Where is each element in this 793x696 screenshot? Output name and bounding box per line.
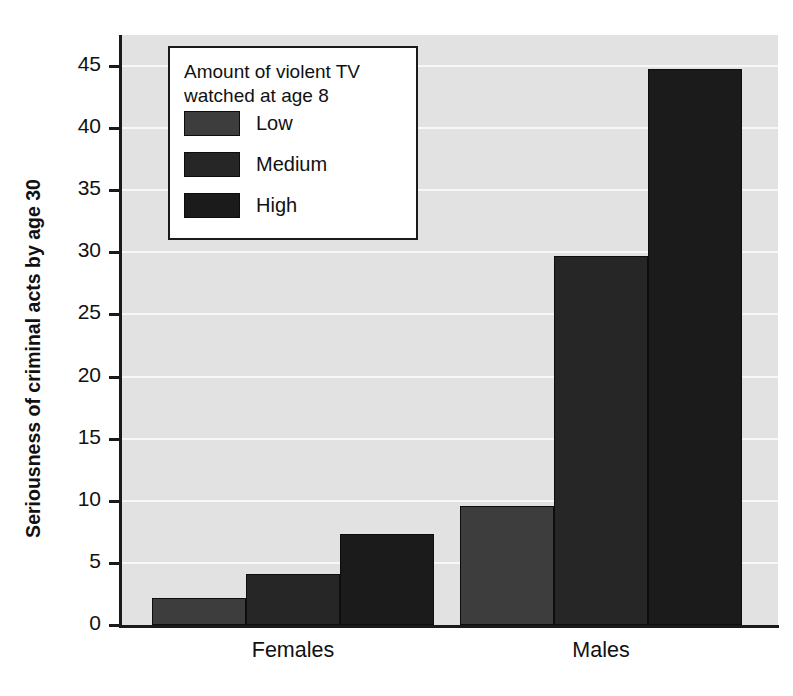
x-axis-line — [119, 625, 779, 628]
y-axis-tick — [109, 127, 122, 130]
y-axis-tick-label: 45 — [41, 52, 101, 76]
legend-label-low: Low — [256, 108, 293, 138]
y-axis-tick-label: 30 — [41, 238, 101, 262]
y-axis-tick-label: 5 — [41, 549, 101, 573]
y-axis-tick-label: 20 — [41, 363, 101, 387]
y-axis-tick-label: 0 — [41, 611, 101, 635]
legend-swatch-medium — [184, 152, 240, 177]
y-axis-tick-label: 15 — [41, 425, 101, 449]
y-axis-tick-label: 40 — [41, 114, 101, 138]
x-axis-label-males: Males — [501, 638, 701, 663]
y-axis-tick — [109, 376, 122, 379]
bar-females-medium — [246, 574, 340, 625]
y-axis-tick-label: 35 — [41, 176, 101, 200]
y-axis-tick — [109, 189, 122, 192]
y-axis-tick — [109, 500, 122, 503]
y-axis-tick — [109, 562, 122, 565]
legend-label-high: High — [256, 190, 297, 220]
y-axis-tick — [109, 438, 122, 441]
legend-label-medium: Medium — [256, 149, 327, 179]
legend-swatch-high — [184, 193, 240, 218]
legend-title-line-2: watched at age 8 — [184, 84, 409, 108]
legend-title-line-1: Amount of violent TV — [184, 60, 409, 84]
y-axis-tick — [109, 313, 122, 316]
x-axis-label-females: Females — [193, 638, 393, 663]
bar-females-high — [340, 534, 434, 625]
bar-males-high — [648, 69, 742, 625]
y-axis-tick — [109, 251, 122, 254]
y-axis-tick-label: 25 — [41, 300, 101, 324]
bar-males-medium — [554, 256, 648, 625]
y-axis-tick — [109, 65, 122, 68]
legend-title: Amount of violent TVwatched at age 8 — [184, 60, 409, 108]
legend-box: Amount of violent TVwatched at age 8 Low… — [168, 46, 418, 240]
bar-males-low — [460, 506, 554, 625]
bar-females-low — [152, 598, 246, 625]
y-axis-tick-label: 10 — [41, 487, 101, 511]
legend-swatch-low — [184, 111, 240, 136]
chart-figure: Seriousness of criminal acts by age 30 0… — [0, 0, 793, 696]
